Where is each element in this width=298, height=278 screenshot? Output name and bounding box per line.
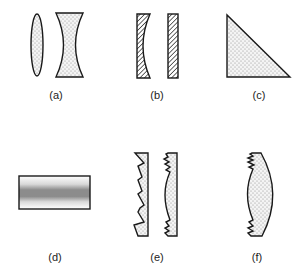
right-angle-prism (227, 15, 290, 77)
panel-c: (c) (227, 15, 290, 101)
panel-label-e: (e) (150, 251, 163, 263)
grin-plate (19, 176, 90, 209)
optical-elements-diagram: (a) (b) (c) (d) (e) (f) (0, 0, 298, 278)
hybrid-diffractive-lens (248, 153, 273, 236)
panel-label-b: (b) (150, 89, 163, 101)
biconcave-lens (56, 13, 83, 77)
panel-a: (a) (31, 13, 83, 101)
linear-fresnel-lens (134, 153, 148, 236)
curved-fresnel-lens (164, 153, 177, 236)
panel-label-f: (f) (252, 251, 262, 263)
panel-b: (b) (137, 14, 178, 101)
plano-concave-element (137, 14, 150, 78)
panel-f: (f) (248, 153, 273, 263)
panel-label-a: (a) (49, 89, 62, 101)
panel-label-d: (d) (48, 251, 61, 263)
panel-e: (e) (134, 153, 177, 263)
plane-parallel-plate (168, 14, 178, 78)
biconvex-lens (31, 14, 43, 76)
panel-label-c: (c) (253, 89, 266, 101)
panel-d: (d) (19, 176, 90, 263)
